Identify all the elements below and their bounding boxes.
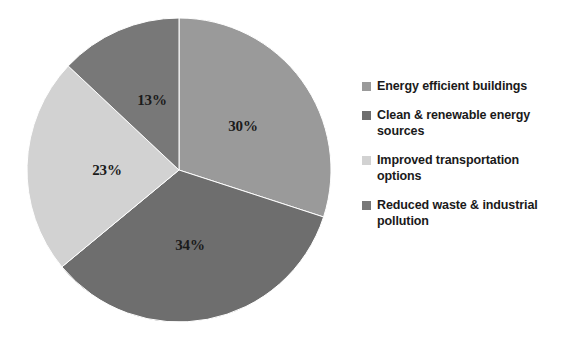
- legend-swatch-icon: [362, 111, 371, 120]
- legend-item-label: Reduced waste & industrial pollution: [377, 197, 566, 229]
- legend-item-label: Improved transportation options: [377, 152, 566, 184]
- legend-swatch-icon: [362, 201, 371, 210]
- pie-slice-group: [27, 18, 331, 322]
- legend-item[interactable]: Reduced waste & industrial pollution: [362, 197, 566, 229]
- legend-swatch-icon: [362, 82, 371, 91]
- pie-chart-figure: 30%34%23%13% Energy efficient buildingsC…: [0, 0, 570, 346]
- chart-legend: Energy efficient buildingsClean & renewa…: [362, 78, 566, 242]
- pie-data-label: 13%: [137, 92, 166, 109]
- legend-item-label: Clean & renewable energy sources: [377, 107, 566, 139]
- legend-swatch-icon: [362, 156, 371, 165]
- legend-item[interactable]: Clean & renewable energy sources: [362, 107, 566, 139]
- pie-data-label: 23%: [92, 162, 121, 179]
- legend-item-label: Energy efficient buildings: [377, 78, 527, 94]
- pie-plot-area: 30%34%23%13%: [0, 0, 350, 346]
- pie-data-label: 30%: [228, 118, 257, 135]
- pie-data-label: 34%: [175, 237, 204, 254]
- legend-item[interactable]: Improved transportation options: [362, 152, 566, 184]
- pie-svg: [0, 0, 350, 346]
- legend-item[interactable]: Energy efficient buildings: [362, 78, 566, 94]
